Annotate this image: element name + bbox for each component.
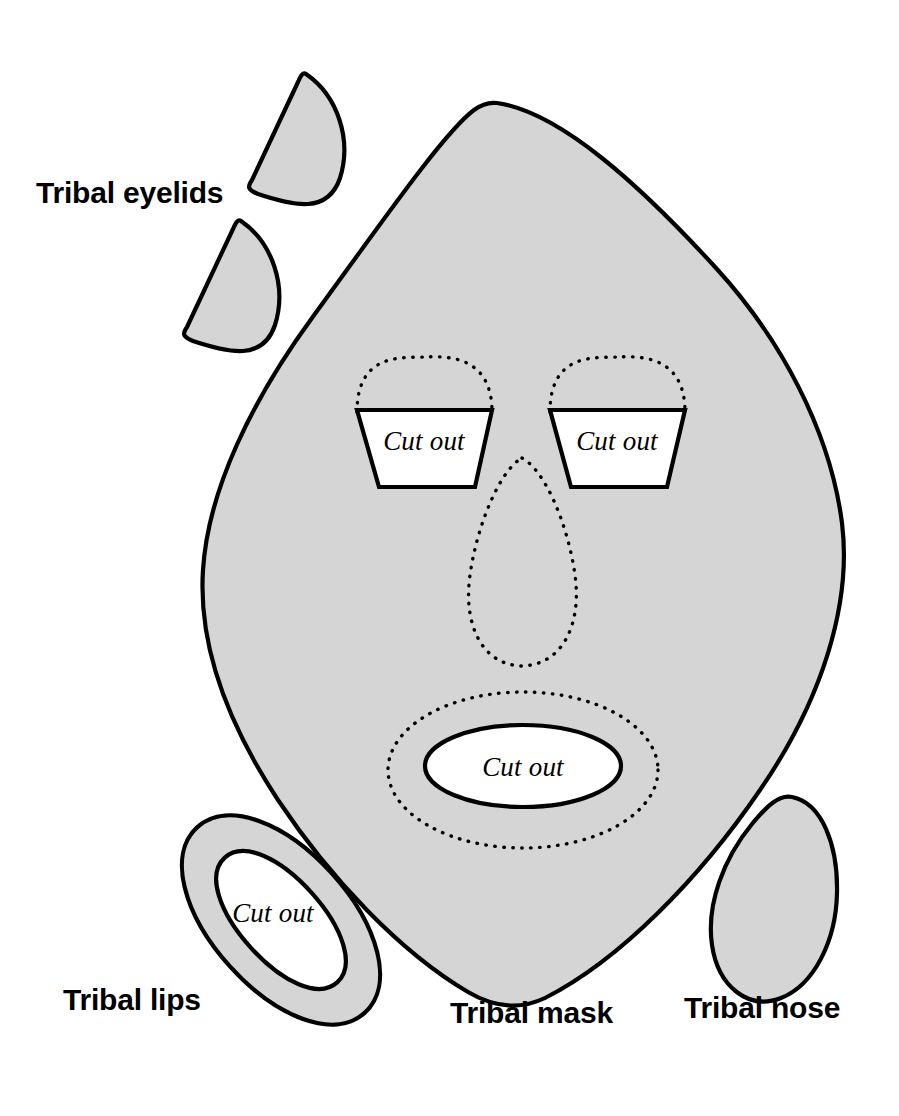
tribal-lips-cutout-label: Cut out: [232, 898, 315, 928]
tribal-eyelid-upper[interactable]: [249, 73, 344, 204]
tribal-eyelid-lower[interactable]: [184, 220, 279, 351]
tribal-eyelid-upper-shape: [249, 73, 344, 204]
mouth-cutout-label: Cut out: [482, 752, 565, 782]
label-tribal-mask: Tribal mask: [450, 996, 613, 1029]
mouth-cutout[interactable]: Cut out: [425, 725, 621, 807]
right-eye-cutout[interactable]: Cut out: [550, 410, 685, 487]
left-eye-cutout-label: Cut out: [383, 426, 466, 456]
tribal-mask-diagram: Cut out Cut out Cut out: [0, 0, 899, 1116]
page-canvas: Cut out Cut out Cut out: [0, 0, 899, 1116]
tribal-eyelid-lower-shape: [184, 220, 279, 351]
left-eye-cutout[interactable]: Cut out: [357, 410, 492, 487]
label-tribal-eyelids: Tribal eyelids: [36, 176, 223, 209]
label-tribal-nose: Tribal nose: [684, 991, 840, 1024]
label-tribal-lips: Tribal lips: [63, 983, 201, 1016]
right-eye-cutout-label: Cut out: [576, 426, 659, 456]
